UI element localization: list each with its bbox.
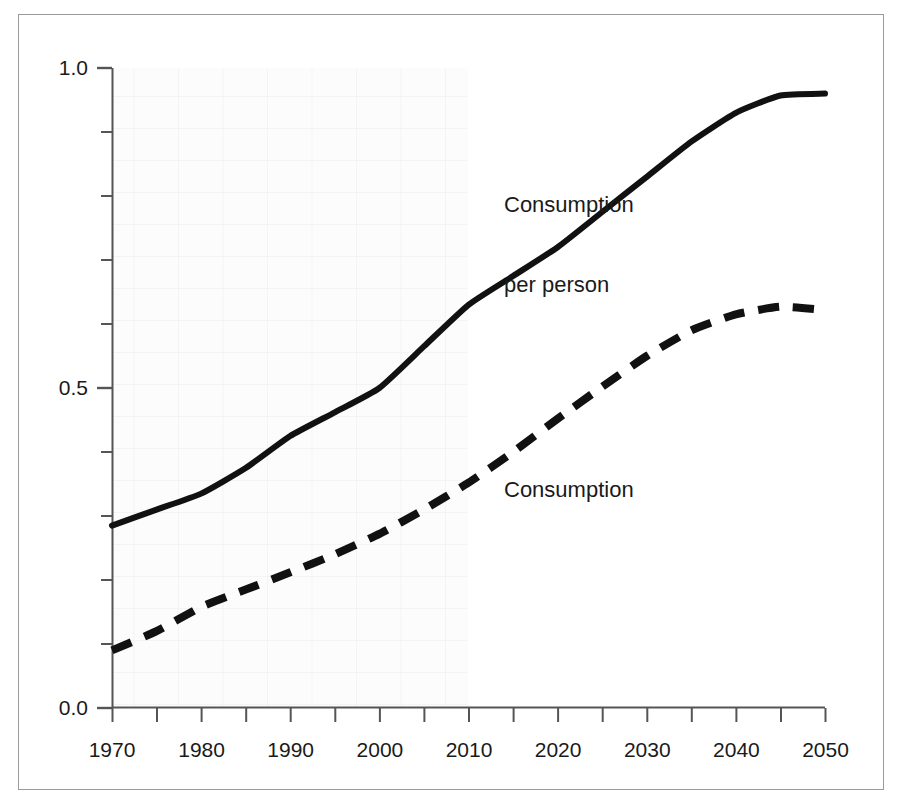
y-tick-label-1: 1.0: [40, 56, 88, 80]
x-tick-label-2030: 2030: [624, 738, 671, 762]
y-tick-label-0-5: 0.5: [40, 376, 88, 400]
x-tick-label-1970: 1970: [89, 738, 136, 762]
annotation-consumption: Consumption: [504, 477, 634, 504]
y-tick-label-0: 0.0: [40, 696, 88, 720]
x-tick-label-2050: 2050: [802, 738, 849, 762]
x-tick-label-2040: 2040: [713, 738, 760, 762]
annotation-consumption-per-person: Consumption per person: [504, 138, 634, 353]
annotation-consumption-per-person-line1: Consumption: [504, 192, 634, 219]
x-axis-ticks: [113, 708, 826, 722]
y-axis-ticks: [97, 68, 112, 708]
x-tick-label-1980: 1980: [178, 738, 225, 762]
chart-figure: 1.0 0.5 0.0 1970 1980 1990 2000 2010 202…: [0, 0, 903, 810]
x-tick-label-1990: 1990: [267, 738, 314, 762]
x-tick-label-2010: 2010: [446, 738, 493, 762]
annotation-consumption-per-person-line2: per person: [504, 272, 634, 299]
chart-plot-area: [0, 0, 903, 810]
grid-background: [112, 68, 468, 708]
x-tick-label-2000: 2000: [357, 738, 404, 762]
x-tick-label-2020: 2020: [535, 738, 582, 762]
